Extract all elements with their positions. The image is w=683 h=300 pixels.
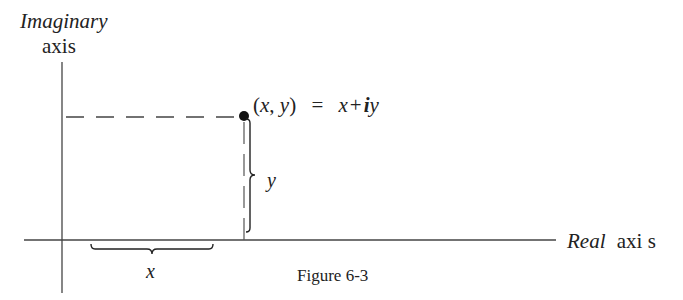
formula-x2: x <box>338 93 349 117</box>
y-brace-label: y <box>265 169 276 192</box>
real-axis-label-italic: Real <box>566 229 606 253</box>
complex-plane-diagram: Imaginary axis Real axi s y x (x, y) = x… <box>0 0 683 300</box>
imaginary-axis-label-line1: Imaginary <box>19 9 108 33</box>
formula-plus: + <box>350 93 362 117</box>
imaginary-axis-label-line2: axis <box>42 34 76 58</box>
y-brace <box>246 119 255 232</box>
point-formula-label: (x, y) = x+iy <box>253 93 380 117</box>
figure-caption: Figure 6-3 <box>297 266 368 285</box>
formula-open-paren: ( <box>253 93 260 117</box>
formula-y: y <box>278 93 290 117</box>
formula-comma: , <box>269 93 280 117</box>
real-axis-label-plain: axi s <box>617 229 656 253</box>
formula-close-paren: ) <box>289 93 296 117</box>
x-brace <box>91 244 213 254</box>
real-axis-label: Real axi s <box>566 229 656 253</box>
x-brace-label: x <box>145 260 155 282</box>
formula-equals: = <box>311 93 323 117</box>
formula-y2: y <box>368 93 380 117</box>
